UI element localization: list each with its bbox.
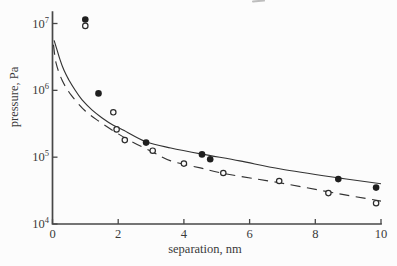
- y-tick-label: 105: [32, 148, 49, 164]
- x-tick-label: 0: [49, 227, 55, 241]
- x-axis-title: separation, nm: [168, 242, 242, 257]
- x-tick-label: 10: [375, 227, 388, 241]
- y-axis-title: pressure, Pa: [7, 67, 22, 127]
- chart-canvas: 0246810104105106107: [0, 0, 397, 266]
- filled-circle-marker: [82, 16, 89, 23]
- open-circle-marker: [373, 201, 378, 206]
- y-tick-label: 106: [32, 81, 49, 97]
- open-circle-marker: [150, 148, 155, 153]
- solid-theory-curve: [54, 40, 381, 184]
- open-circle-marker: [111, 110, 116, 115]
- x-tick-label: 8: [312, 227, 318, 241]
- x-tick-label: 4: [181, 227, 188, 241]
- filled-circle-marker: [207, 156, 214, 163]
- filled-circle-marker: [143, 139, 150, 146]
- open-circle-marker: [277, 178, 282, 183]
- open-circle-marker: [83, 23, 88, 28]
- x-tick-label: 6: [246, 227, 252, 241]
- pressure-vs-separation-figure: 0246810104105106107 pressure, Pa separat…: [0, 0, 397, 266]
- open-circle-marker: [181, 161, 186, 166]
- y-tick-label: 104: [32, 215, 50, 231]
- open-circle-marker: [221, 170, 226, 175]
- x-tick-label: 2: [115, 227, 121, 241]
- filled-circle-marker: [95, 90, 102, 97]
- filled-circle-marker: [199, 151, 206, 158]
- filled-circle-marker: [373, 184, 380, 191]
- dashed-theory-curve: [54, 45, 382, 201]
- filled-circle-marker: [335, 176, 342, 183]
- y-tick-label: 107: [32, 15, 49, 31]
- open-circle-marker: [114, 127, 119, 132]
- open-circle-marker: [122, 137, 127, 142]
- open-circle-marker: [326, 190, 331, 195]
